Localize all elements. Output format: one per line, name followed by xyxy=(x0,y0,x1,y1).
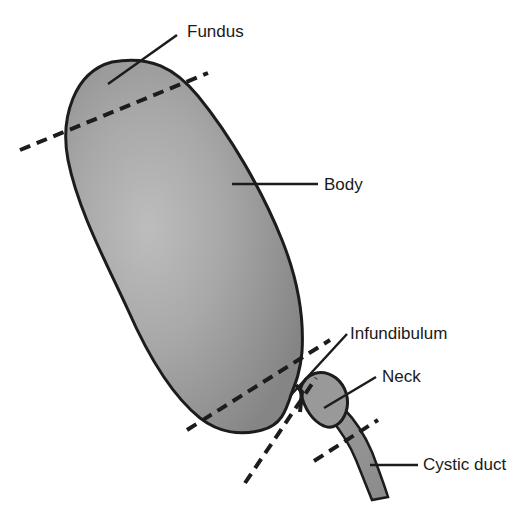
label-cystic-duct: Cystic duct xyxy=(423,455,506,474)
diagram-canvas: Fundus Body Infundibulum Neck Cystic duc… xyxy=(0,0,532,513)
label-body: Body xyxy=(324,175,363,194)
label-infundibulum: Infundibulum xyxy=(350,324,447,343)
gallbladder-body-shape xyxy=(66,60,303,433)
label-neck: Neck xyxy=(382,367,421,386)
neck-shape xyxy=(300,373,348,428)
gallbladder-diagram: Fundus Body Infundibulum Neck Cystic duc… xyxy=(0,0,532,513)
label-fundus: Fundus xyxy=(187,22,244,41)
